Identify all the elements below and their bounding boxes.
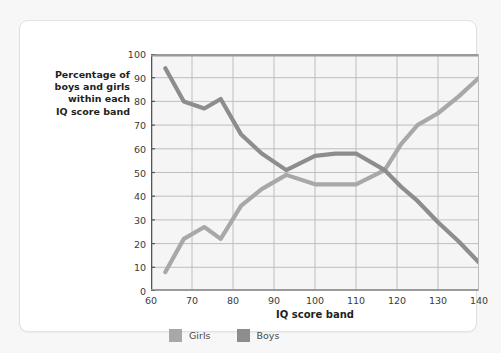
- x-tick-label: 100: [306, 295, 324, 306]
- line-chart-svg: [151, 54, 479, 291]
- x-tick-label: 130: [429, 295, 447, 306]
- legend-item-boys[interactable]: Boys: [237, 329, 280, 342]
- y-axis-title-line-1: Percentage of: [44, 69, 130, 81]
- y-tick-label: 30: [134, 214, 146, 225]
- y-tick-label: 80: [134, 96, 146, 107]
- plot-area: 0102030405060708090100 60708090100110120…: [151, 54, 479, 291]
- y-axis-title-line-3: within each: [44, 93, 130, 105]
- y-tick-label: 10: [134, 262, 146, 273]
- y-axis-title-line-4: IQ score band: [44, 106, 130, 118]
- x-tick-label: 90: [268, 295, 280, 306]
- y-tick-label: 20: [134, 238, 146, 249]
- y-tick-label: 90: [134, 72, 146, 83]
- x-axis-title: IQ score band: [151, 309, 479, 320]
- x-tick-label: 120: [388, 295, 406, 306]
- y-axis-title-line-2: boys and girls: [44, 81, 130, 93]
- x-tick-label: 60: [145, 295, 157, 306]
- x-tick-label: 80: [227, 295, 239, 306]
- y-tick-label: 50: [134, 167, 146, 178]
- chart-card: Percentage of boys and girls within each…: [19, 20, 477, 332]
- y-tick-label: 60: [134, 143, 146, 154]
- x-tick-label: 70: [186, 295, 198, 306]
- y-tick-label: 70: [134, 120, 146, 131]
- legend-swatch-icon: [237, 329, 250, 342]
- legend-label: Boys: [257, 330, 280, 341]
- x-tick-label: 110: [347, 295, 365, 306]
- y-axis-title: Percentage of boys and girls within each…: [44, 69, 130, 118]
- chart-legend: GirlsBoys: [151, 329, 497, 342]
- y-tick-label: 100: [128, 49, 146, 60]
- y-tick-label: 40: [134, 191, 146, 202]
- legend-item-girls[interactable]: Girls: [169, 329, 211, 342]
- legend-swatch-icon: [169, 329, 182, 342]
- screenshot-root: Percentage of boys and girls within each…: [0, 0, 501, 353]
- legend-label: Girls: [189, 330, 211, 341]
- x-tick-label: 140: [470, 295, 488, 306]
